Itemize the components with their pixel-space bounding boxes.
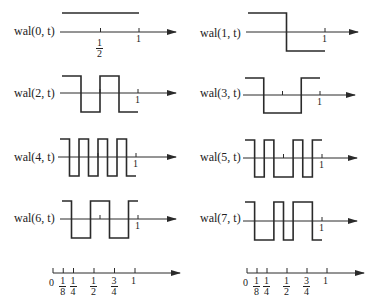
ruler-label: 1 [323,276,328,286]
panel-label-wal2: wal(2, t) [14,86,55,101]
tick-label-one: 1 [319,223,324,233]
tick-label-one: 1 [135,95,140,105]
tick-label-one: 1 [317,97,322,107]
ruler-label-zero: 0 [49,278,54,288]
panel-label-wal1: wal(1, t) [200,26,241,41]
ruler-label-zero: 0 [243,278,248,288]
ruler-label: 18 [59,276,66,297]
ruler-label: 14 [263,276,270,297]
panel-label-wal0: wal(0, t) [14,24,55,39]
tick-label-one: 1 [133,159,138,169]
ruler-label: 12 [283,276,290,297]
ruler-label: 34 [303,276,310,297]
tick-label-half: 12 [96,38,103,59]
tick-label-one: 1 [136,34,141,44]
ruler-label: 34 [111,276,118,297]
panel-label-wal6: wal(6, t) [14,211,55,226]
ruler-label: 1 [131,276,136,286]
tick-label-one: 1 [319,160,324,170]
waveform-wal2 [62,76,138,112]
walsh-diagram-canvas [0,0,377,307]
tick-label-one: 1 [322,34,327,44]
ruler-label: 12 [90,276,97,297]
panel-label-wal4: wal(4, t) [14,150,55,165]
tick-label-one: 1 [135,221,140,231]
ruler-label: 18 [253,276,260,297]
panel-label-wal7: wal(7, t) [200,211,241,226]
panel-label-wal3: wal(3, t) [200,86,241,101]
ruler-label: 14 [70,276,77,297]
panel-label-wal5: wal(5, t) [200,150,241,165]
